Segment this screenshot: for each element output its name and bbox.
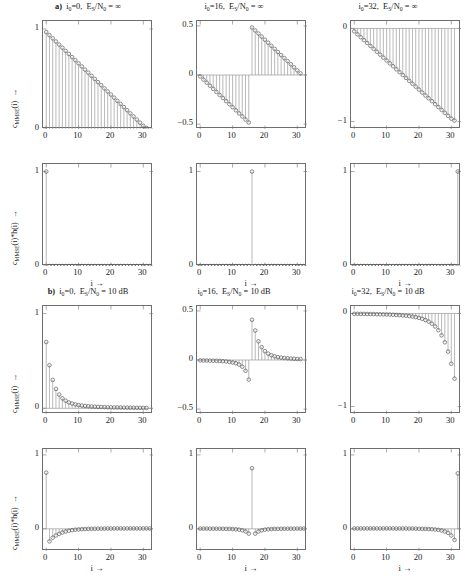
- xtick-label: 0: [35, 415, 55, 425]
- xtick-label: 30: [286, 267, 306, 277]
- plot-axes-a1-conv: [42, 163, 152, 265]
- title-math-b2: i0=16, ES/N0 = 10 dB: [197, 287, 270, 296]
- panel-title-b1: b) i0=0, ES/N0 = 10 dB: [22, 287, 154, 301]
- ytick-label: 0: [169, 68, 193, 78]
- xtick-label: 10: [376, 552, 396, 562]
- plot-axes-a3-coeff: [350, 20, 460, 128]
- xtick-label: 10: [68, 267, 88, 277]
- xtick-label: 10: [68, 552, 88, 562]
- plot-axes-b3-conv: [350, 448, 460, 550]
- stem-plot-b2-coeff: [197, 306, 307, 414]
- ytick-label: −1: [323, 115, 347, 125]
- xtick-label: 20: [254, 267, 274, 277]
- section-tag-a: a): [55, 2, 62, 11]
- ytick-label: 0.5: [169, 304, 193, 314]
- xtick-label: 0: [189, 552, 209, 562]
- xtick-label: 30: [132, 267, 152, 277]
- ytick-label: 1: [323, 165, 347, 175]
- ytick-label: 0: [323, 306, 347, 316]
- ytick-label: −1: [323, 400, 347, 410]
- xtick-label: 0: [343, 267, 363, 277]
- plot-axes-b2-conv: [196, 448, 306, 550]
- xtick-label: 10: [222, 267, 242, 277]
- xtick-label: 20: [254, 130, 274, 140]
- stem-plot-a2-coeff: [197, 21, 307, 129]
- title-math-a2: i0=16, ES/N0 = ∞: [205, 2, 264, 11]
- panel-title-b3: i0=32, ES/N0 = 10 dB: [322, 287, 454, 301]
- xtick-label: 20: [100, 130, 120, 140]
- xtick-label: 30: [440, 552, 460, 562]
- ytick-label: 0: [323, 21, 347, 31]
- xtick-label: 30: [132, 552, 152, 562]
- plot-axes-b2-coeff: [196, 305, 306, 413]
- x-axis-label: i →: [350, 278, 460, 288]
- xtick-label: 10: [376, 415, 396, 425]
- plot-axes-a2-conv: [196, 163, 306, 265]
- ytick-label: 1: [15, 22, 39, 32]
- ytick-label: 1: [15, 165, 39, 175]
- ytick-label: 1: [169, 165, 193, 175]
- title-math-b1: i0=0, ES/N0 = 10 dB: [59, 287, 128, 296]
- xtick-label: 10: [222, 130, 242, 140]
- xtick-label: 0: [35, 552, 55, 562]
- ytick-label: 1: [15, 448, 39, 458]
- xtick-label: 0: [35, 267, 55, 277]
- ytick-label: 0: [169, 522, 193, 532]
- xtick-label: 10: [68, 130, 88, 140]
- section-tag-b: b): [48, 287, 55, 296]
- xtick-label: 20: [254, 552, 274, 562]
- xtick-label: 30: [440, 267, 460, 277]
- xtick-label: 30: [286, 130, 306, 140]
- ytick-label: 0: [323, 522, 347, 532]
- x-axis-label: i →: [42, 563, 152, 573]
- stem-plot-b3-conv: [351, 449, 461, 551]
- plot-axes-b1-coeff: [42, 305, 152, 413]
- xtick-label: 30: [440, 130, 460, 140]
- stem-plot-b1-conv: [43, 449, 153, 551]
- xtick-label: 30: [440, 415, 460, 425]
- plot-axes-a1-coeff: [42, 20, 152, 128]
- xtick-label: 10: [68, 415, 88, 425]
- stem-plot-a1-coeff: [43, 21, 153, 129]
- y-axis-label: cMMSE(i) →: [10, 374, 20, 413]
- xtick-label: 20: [254, 415, 274, 425]
- plot-axes-b3-coeff: [350, 305, 460, 413]
- xtick-label: 30: [286, 552, 306, 562]
- title-math-a3: i0=32, ES/N0 = ∞: [359, 2, 418, 11]
- xtick-label: 0: [189, 267, 209, 277]
- x-axis-label: i →: [42, 278, 152, 288]
- x-axis-label: i →: [196, 278, 306, 288]
- plot-axes-a2-coeff: [196, 20, 306, 128]
- xtick-label: 20: [100, 267, 120, 277]
- panel-title-a1: a) i0=0, ES/N0 = ∞: [22, 2, 154, 16]
- ytick-label: 1: [169, 448, 193, 458]
- xtick-label: 10: [376, 130, 396, 140]
- y-axis-label: cMMSE(i) →: [10, 89, 20, 128]
- y-axis-label: cMMSE(i)*h(i) →: [10, 495, 20, 550]
- panel-title-b2: i0=16, ES/N0 = 10 dB: [168, 287, 300, 301]
- ytick-label: −0.5: [169, 117, 193, 127]
- ytick-label: 1: [323, 448, 347, 458]
- stem-plot-b2-conv: [197, 449, 307, 551]
- xtick-label: 0: [189, 130, 209, 140]
- xtick-label: 20: [100, 552, 120, 562]
- xtick-label: 20: [408, 415, 428, 425]
- xtick-label: 0: [343, 552, 363, 562]
- x-axis-label: i →: [196, 563, 306, 573]
- xtick-label: 30: [132, 415, 152, 425]
- stem-plot-b3-coeff: [351, 306, 461, 414]
- xtick-label: 30: [286, 415, 306, 425]
- title-math-b3: i0=32, ES/N0 = 10 dB: [351, 287, 424, 296]
- ytick-label: −0.5: [169, 402, 193, 412]
- xtick-label: 20: [408, 552, 428, 562]
- ytick-label: 0.5: [169, 19, 193, 29]
- xtick-label: 10: [222, 415, 242, 425]
- stem-plot-a2-conv: [197, 164, 307, 266]
- x-axis-label: i →: [350, 563, 460, 573]
- xtick-label: 10: [376, 267, 396, 277]
- plot-axes-a3-conv: [350, 163, 460, 265]
- stem-plot-a1-conv: [43, 164, 153, 266]
- plot-axes-b1-conv: [42, 448, 152, 550]
- xtick-label: 20: [408, 130, 428, 140]
- xtick-label: 0: [35, 130, 55, 140]
